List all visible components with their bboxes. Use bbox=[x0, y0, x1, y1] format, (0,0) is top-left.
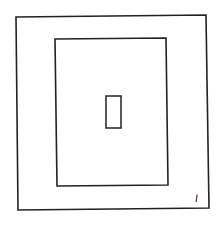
nested-rectangles-diagram bbox=[0, 0, 220, 226]
outer-rectangle bbox=[16, 15, 209, 210]
center-rectangle bbox=[106, 96, 121, 128]
inner-rectangle bbox=[55, 38, 168, 186]
